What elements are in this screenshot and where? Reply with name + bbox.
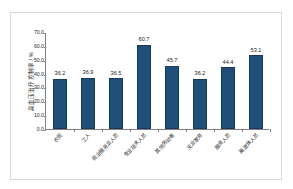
bar-value-label: 36.2: [195, 71, 206, 77]
x-axis-tick-mark: [242, 129, 243, 132]
bar-slot: 36.2: [186, 33, 214, 129]
y-axis-tick-label: 10.0: [34, 114, 44, 119]
figure-container: 高血压治疗控制率 / % 0.010.020.030.040.050.060.0…: [0, 0, 293, 189]
x-axis-category-label-text: 商业服务业人员: [91, 133, 119, 161]
x-axis-tick-mark: [214, 129, 215, 132]
x-axis-tick-mark: [74, 129, 75, 132]
y-axis-tick-mark: [44, 130, 47, 131]
bar-slot: 53.1: [242, 33, 270, 129]
y-axis-tick-label: 40.0: [34, 72, 44, 77]
bar-value-label: 36.9: [83, 70, 94, 76]
x-axis-category-label-text: 农民: [53, 133, 64, 144]
bar-slot: 36.9: [74, 33, 102, 129]
x-axis-tick-mark: [158, 129, 159, 132]
y-axis-tick-label: 30.0: [34, 86, 44, 91]
y-axis-tick-label: 50.0: [34, 58, 44, 63]
bar-value-label: 36.5: [111, 71, 122, 77]
x-axis-category-label-text: 专业技术人员: [123, 133, 148, 158]
bar[interactable]: [81, 78, 95, 129]
bar-slot: 44.4: [214, 33, 242, 129]
bar-value-label: 53.1: [251, 48, 262, 54]
bar-value-label: 60.7: [139, 37, 150, 43]
y-axis-tick-label: 60.0: [34, 44, 44, 49]
bar[interactable]: [221, 67, 235, 129]
x-axis-category-label-text: 工人: [81, 133, 92, 144]
x-axis-category-label-text: 离退休人员: [238, 133, 259, 154]
y-axis-tick-label: 70.0: [34, 30, 44, 35]
bar-value-label: 45.7: [167, 58, 178, 64]
x-axis-category-label-text: 无业家务: [186, 133, 204, 151]
bar-value-label: 36.2: [55, 71, 66, 77]
x-axis-tick-mark: [130, 129, 131, 132]
bar[interactable]: [53, 79, 67, 129]
x-axis-tick-mark: [102, 129, 103, 132]
bar-slot: 36.5: [102, 33, 130, 129]
x-axis-tick-mark: [186, 129, 187, 132]
x-axis-category-label-text: 其他劳动者: [154, 133, 175, 154]
bar[interactable]: [109, 78, 123, 129]
plot-area: 0.010.020.030.040.050.060.070.0 36.236.9…: [45, 33, 269, 130]
chart-frame: 高血压治疗控制率 / % 0.010.020.030.040.050.060.0…: [10, 12, 282, 180]
bar-slot: 36.2: [46, 33, 74, 129]
x-axis-category-label-text: 服务人员: [214, 133, 232, 151]
x-axis-tick-mark: [270, 129, 271, 132]
y-axis-tick-label: 20.0: [34, 100, 44, 105]
bar[interactable]: [193, 79, 207, 129]
bar[interactable]: [165, 66, 179, 129]
bar-value-label: 44.4: [223, 60, 234, 66]
bar[interactable]: [249, 55, 263, 129]
